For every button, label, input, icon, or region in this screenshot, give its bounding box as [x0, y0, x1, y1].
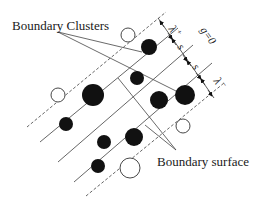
- g-zero-label: g=0: [198, 24, 219, 46]
- filled-cluster: [141, 39, 157, 55]
- boundary-clusters-label: Boundary Clusters: [12, 18, 109, 33]
- filled-cluster: [175, 85, 195, 105]
- svg-text:s: s: [175, 41, 187, 51]
- filled-cluster: [125, 128, 143, 146]
- spacing-label-2: s: [190, 61, 202, 71]
- filled-clusters: [59, 39, 195, 173]
- open-cluster: [121, 28, 135, 42]
- filled-cluster: [91, 159, 105, 173]
- plane-line-2: [58, 45, 193, 162]
- spacing-label-1: s: [175, 41, 187, 51]
- open-cluster: [120, 158, 140, 178]
- svg-text:g=0: g=0: [198, 24, 219, 46]
- boundary-diagram: Boundary Clusters Boundary surface λ + s…: [0, 0, 259, 207]
- lambda-minus-label: λ −: [210, 73, 230, 92]
- open-cluster: [51, 88, 65, 102]
- open-cluster: [176, 119, 190, 133]
- boundary-surface-label: Boundary surface: [157, 154, 249, 169]
- filled-cluster: [130, 71, 144, 85]
- filled-cluster: [59, 117, 73, 131]
- filled-cluster: [150, 91, 168, 109]
- filled-cluster: [82, 84, 104, 106]
- filled-cluster: [97, 135, 111, 149]
- clusters-leaders: [58, 32, 178, 92]
- svg-text:s: s: [190, 61, 202, 71]
